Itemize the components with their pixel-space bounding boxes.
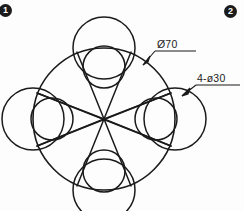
inner-circle-right	[135, 98, 177, 140]
callout-marker-2[interactable]: 2	[224, 5, 237, 18]
satellite-circle-bottom	[73, 159, 135, 211]
star-line-8	[104, 52, 131, 119]
inner-circle-left	[31, 98, 73, 140]
drawing-canvas: 1 2 Ø70 4-ø30	[0, 0, 244, 211]
inner-circle-top	[83, 46, 125, 88]
inner-circle-bottom	[83, 150, 125, 192]
star-lines	[37, 52, 171, 186]
dimension-label-hole-pattern: 4-ø30	[197, 72, 225, 84]
technical-drawing	[0, 0, 244, 211]
star-line-7	[77, 52, 104, 119]
dimension-label-bolt-circle: Ø70	[157, 38, 177, 50]
